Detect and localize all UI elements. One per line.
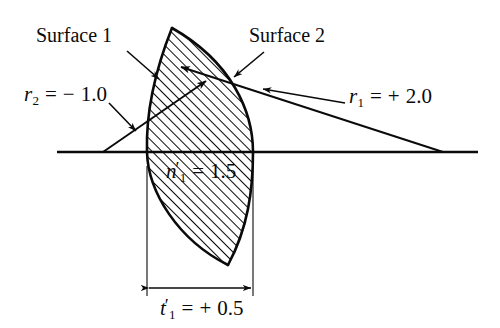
label-r2: r2=−1.0 [24,84,107,107]
label-r2-relation: = [45,82,57,106]
lens-body [147,28,253,265]
label-refractive-index: n′1=1.5 [166,160,236,184]
label-n1-relation: = [192,159,204,183]
label-t1-value: 0.5 [217,296,243,320]
label-n1-subscript: 1 [180,170,187,185]
label-r2-symbol: r [24,82,32,106]
label-n1-value: 1.5 [210,159,236,183]
leader-arrow-r1 [263,89,345,103]
label-r1-sign: + [388,84,400,108]
label-r1-value: 2.0 [406,84,432,108]
label-r1: r1=+2.0 [349,86,432,109]
optics-diagram-figure: Surface 1 Surface 2 r2=−1.0 r1=+2.0 n′1=… [0,0,500,328]
label-n1-prime: ′ [176,159,180,179]
label-thickness: t′1=+0.5 [160,297,244,321]
label-r2-value: 1.0 [81,82,107,106]
leader-arrow-r2 [109,103,136,131]
label-surface-2: Surface 2 [249,25,325,45]
diagram-canvas [0,0,500,328]
label-t1-subscript: 1 [169,307,176,322]
leader-arrow-surface-2 [234,52,264,77]
label-t1-sign: + [199,296,211,320]
label-t1-relation: = [182,296,194,320]
label-surface-1: Surface 1 [36,25,112,45]
label-r2-sign: − [63,82,75,106]
label-n1-symbol: n [166,159,177,183]
label-r1-relation: = [370,84,382,108]
lens-hatching [147,28,253,265]
label-r1-symbol: r [349,84,357,108]
label-r1-subscript: 1 [357,95,364,110]
leader-arrow-surface-1 [127,51,159,79]
label-r2-subscript: 2 [32,93,39,108]
